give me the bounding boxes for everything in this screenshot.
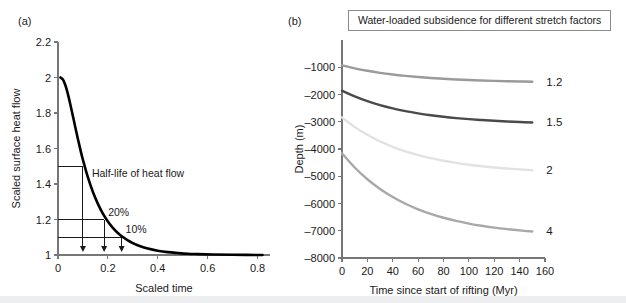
panel-b-x-tick-label: 140 — [510, 265, 528, 277]
panel-b-x-tick-label: 0 — [339, 265, 345, 277]
panel-b-x-tick-label: 20 — [361, 265, 373, 277]
subsidence-curve-1.2 — [342, 65, 532, 81]
panel-b-chart: –8000–7000–6000–5000–4000–3000–2000–1000… — [0, 0, 626, 303]
panel-b-y-tick-label: –4000 — [304, 143, 335, 155]
subsidence-curve-4 — [342, 153, 532, 231]
bottom-strip — [0, 296, 626, 303]
subsidence-curve-2 — [342, 117, 532, 170]
panel-b-y-tick-label: –3000 — [304, 116, 335, 128]
panel-b-x-tick-label: 40 — [387, 265, 399, 277]
series-label-2: 2 — [546, 164, 552, 176]
panel-b-x-tick-label: 120 — [485, 265, 503, 277]
panel-b-y-tick-label: –2000 — [304, 89, 335, 101]
panel-b-x-tick-label: 160 — [536, 265, 554, 277]
panel-b-y-tick-label: –7000 — [304, 225, 335, 237]
panel-b-x-tick-label: 80 — [437, 265, 449, 277]
figure-container: (a) (b) Water-loaded subsidence for diff… — [0, 0, 626, 303]
panel-b-x-tick-label: 60 — [412, 265, 424, 277]
series-label-4: 4 — [546, 225, 553, 237]
panel-b-y-tick-label: –6000 — [304, 198, 335, 210]
subsidence-curve-1.5 — [342, 91, 532, 123]
panel-b-y-axis-title: Depth (m) — [293, 125, 305, 174]
series-label-1.2: 1.2 — [546, 76, 562, 88]
panel-b-x-tick-label: 100 — [460, 265, 478, 277]
panel-b-y-tick-label: –5000 — [304, 170, 335, 182]
series-label-1.5: 1.5 — [546, 116, 562, 128]
panel-b-y-tick-label: –1000 — [304, 61, 335, 73]
panel-b-y-tick-label: –8000 — [304, 252, 335, 264]
panel-b-x-axis-title: Time since start of rifting (Myr) — [369, 284, 517, 296]
